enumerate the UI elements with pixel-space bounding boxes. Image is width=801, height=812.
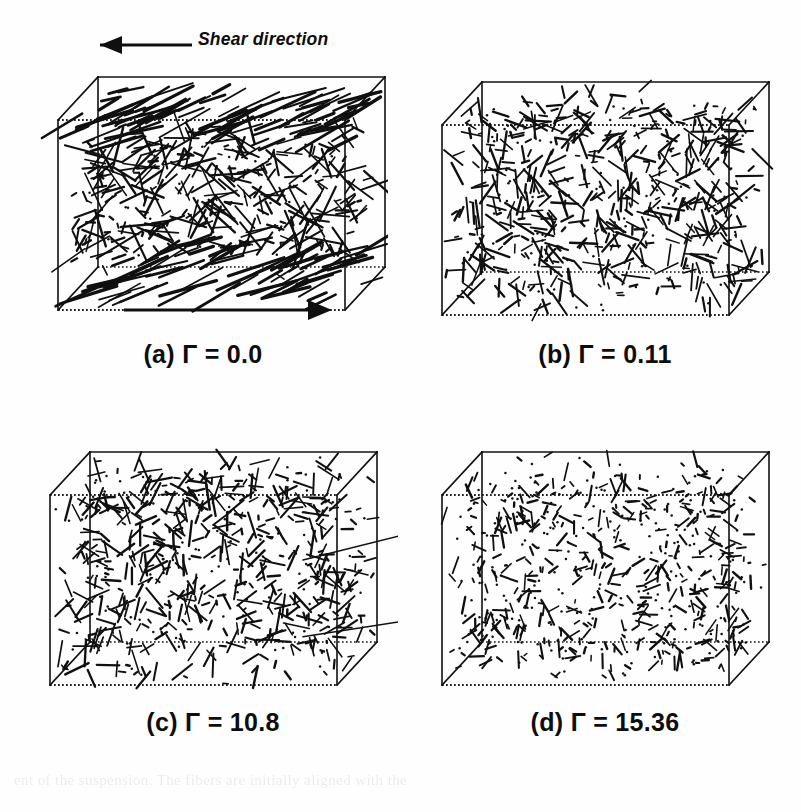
panel-a-caption: (a) Γ = 0.0: [18, 340, 388, 369]
simulation-box-d: [420, 440, 790, 692]
panel-c-caption: (c) Γ = 10.8: [28, 708, 398, 737]
panel-b-caption: (b) Γ = 0.11: [420, 340, 790, 369]
shear-direction-annotation: Shear direction: [70, 30, 370, 60]
shear-direction-label: Shear direction: [198, 29, 328, 50]
arrow-right-icon: [118, 290, 338, 330]
simulation-box-c: [28, 440, 398, 692]
figure-root: Shear direction (a) Γ = 0.0 (b) Γ = 0.11…: [0, 0, 801, 812]
simulation-box-b: [420, 70, 790, 322]
simulation-box-a: [18, 62, 388, 322]
panel-d-caption: (d) Γ = 15.36: [420, 708, 790, 737]
page-bleed-artifact: ent of the suspension. The fibers are in…: [0, 768, 801, 812]
